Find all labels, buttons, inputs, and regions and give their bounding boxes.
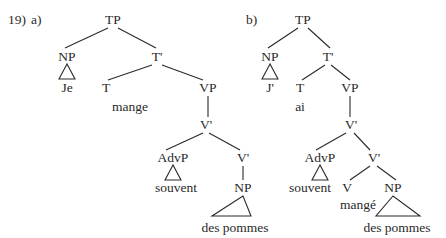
node-v-bar: V'	[345, 117, 357, 133]
word-ai: ai	[295, 99, 305, 115]
node-v-bar: V'	[200, 117, 212, 133]
node-t-bar: T'	[152, 49, 163, 65]
node-v-bar-2: V'	[368, 150, 380, 166]
word-mange-participle: mangé	[340, 197, 376, 213]
node-t: T	[296, 80, 304, 96]
node-np: NP	[58, 49, 75, 65]
node-v-bar-2: V'	[237, 150, 249, 166]
tree-a-label: a)	[31, 12, 42, 28]
word-des-pommes: des pommes	[201, 220, 268, 236]
node-t: T	[102, 80, 110, 96]
triangle-np-des-pommes	[212, 196, 251, 216]
node-np-2: NP	[234, 180, 251, 196]
triangle-advp-souvent	[165, 165, 181, 180]
node-vp: VP	[199, 80, 216, 96]
node-v: V	[342, 180, 352, 196]
node-advp: AdvP	[158, 150, 189, 166]
triangle-np-des-pommes-b	[376, 196, 420, 216]
word-mange: mange	[112, 99, 148, 115]
tree-edges	[0, 0, 446, 238]
node-np: NP	[261, 49, 278, 65]
word-souvent: souvent	[155, 180, 197, 196]
word-je: Je	[61, 80, 72, 96]
triangle-np-je	[59, 64, 75, 79]
node-advp: AdvP	[305, 150, 336, 166]
triangle-advp-souvent-b	[312, 165, 328, 180]
word-souvent: souvent	[289, 180, 331, 196]
node-tp: TP	[295, 12, 311, 28]
word-j: J'	[266, 80, 274, 96]
tree-b-label: b)	[246, 12, 257, 28]
node-np-2: NP	[384, 180, 401, 196]
triangle-np-j	[262, 64, 278, 79]
node-tp: TP	[105, 12, 121, 28]
node-vp: VP	[341, 80, 358, 96]
example-number: 19)	[8, 12, 26, 28]
node-t-bar: T'	[323, 49, 334, 65]
word-des-pommes: des pommes	[363, 220, 430, 236]
